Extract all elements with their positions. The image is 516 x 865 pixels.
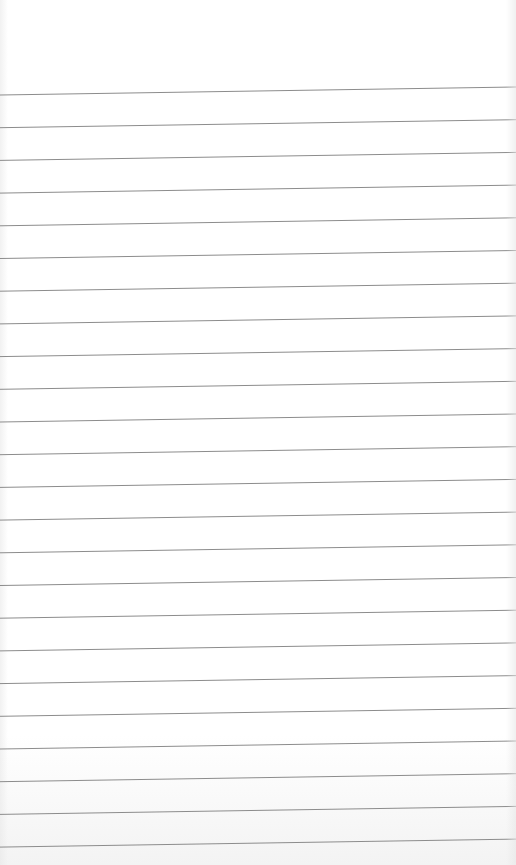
ruled-line — [0, 479, 516, 487]
ruled-line — [0, 152, 516, 160]
ruled-line — [0, 806, 516, 814]
ruled-line — [0, 741, 516, 749]
ruled-line — [0, 545, 516, 553]
ruled-line — [0, 316, 516, 324]
ruled-line — [0, 87, 516, 95]
ruled-line — [0, 578, 516, 586]
ruled-line — [0, 218, 516, 226]
ruled-line — [0, 120, 516, 128]
ruled-line — [0, 414, 516, 422]
ruled-line — [0, 643, 516, 651]
ruled-lines — [0, 0, 516, 865]
ruled-line — [0, 251, 516, 259]
ruled-line — [0, 839, 516, 847]
ruled-line — [0, 283, 516, 291]
ruled-line — [0, 447, 516, 455]
ruled-line — [0, 708, 516, 716]
ruled-line — [0, 381, 516, 389]
ruled-line — [0, 349, 516, 357]
ruled-line — [0, 774, 516, 782]
ruled-line — [0, 676, 516, 684]
ruled-line — [0, 512, 516, 520]
lined-paper-sheet — [0, 0, 516, 865]
ruled-line — [0, 610, 516, 618]
ruled-line — [0, 185, 516, 193]
